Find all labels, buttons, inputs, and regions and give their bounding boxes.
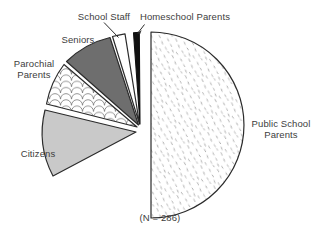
pie-label-homeschool-parents: Homeschool Parents [140,11,232,22]
leader-line-homeschool-parents [138,25,145,34]
pie-slice-public-school-parents [151,32,244,218]
pie-label-citizens: Citizens [12,148,64,159]
pie-chart-figure: School Staff Homeschool Parents Seniors … [0,0,320,237]
leader-line-school-staff [104,23,119,38]
pie-label-seniors: Seniors [54,34,102,45]
chart-caption: (N = 286) [100,212,220,223]
pie-label-school-staff: School Staff [68,11,140,22]
pie-label-parochial-parents: Parochial Parents [4,58,64,80]
pie-label-public-school-parents: Public School Parents [245,118,317,140]
